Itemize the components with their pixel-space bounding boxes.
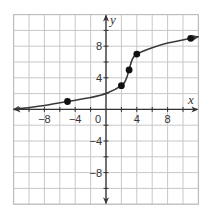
graph: −8−404884−4−8 x y — [0, 0, 214, 219]
y-tick-label: 8 — [96, 40, 102, 52]
x-axis-label: x — [187, 92, 194, 107]
x-tick-label: −4 — [69, 113, 82, 125]
x-tick-label: −8 — [38, 113, 51, 125]
data-point — [118, 82, 125, 89]
x-tick-label: 4 — [134, 113, 140, 125]
x-tick-label: 0 — [95, 113, 101, 125]
y-tick-label: −8 — [89, 167, 102, 179]
y-tick-label: −4 — [89, 135, 102, 147]
data-point — [64, 98, 71, 105]
y-axis-label: y — [108, 12, 116, 27]
data-point — [126, 67, 133, 74]
data-points — [64, 35, 194, 105]
data-point — [187, 35, 194, 42]
y-tick-label: 4 — [96, 72, 102, 84]
x-tick-label: 8 — [165, 113, 171, 125]
data-point — [133, 51, 140, 58]
axes — [15, 16, 198, 204]
